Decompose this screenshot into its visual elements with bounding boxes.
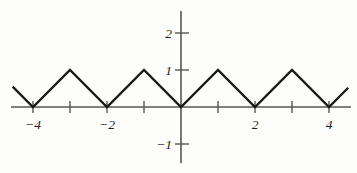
x-axis-label-2: 2 [252,117,259,132]
chart-figure: −4 −2 2 4 2 1 −1 [0,0,357,173]
x-axis-label--2: −2 [99,117,115,132]
y-axis-label-2: 2 [165,26,172,41]
x-axis-label-4: 4 [326,117,333,132]
y-axis-label-1: 1 [165,63,172,78]
x-axis-label--4: −4 [25,117,41,132]
triangular-wave-plot: −4 −2 2 4 2 1 −1 [0,0,357,173]
y-axis-label--1: −1 [156,137,172,152]
